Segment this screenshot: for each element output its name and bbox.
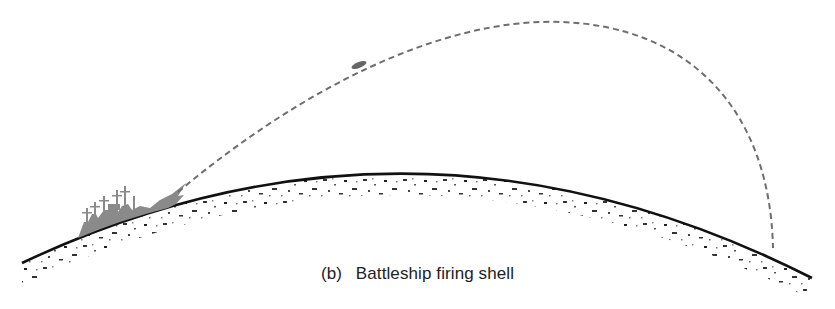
caption-label: (b) <box>321 264 342 283</box>
diagram-canvas <box>0 0 835 309</box>
dashed-trajectory <box>178 22 773 248</box>
caption-text: Battleship firing shell <box>356 264 514 283</box>
figure-caption: (b) Battleship firing shell <box>0 264 835 284</box>
